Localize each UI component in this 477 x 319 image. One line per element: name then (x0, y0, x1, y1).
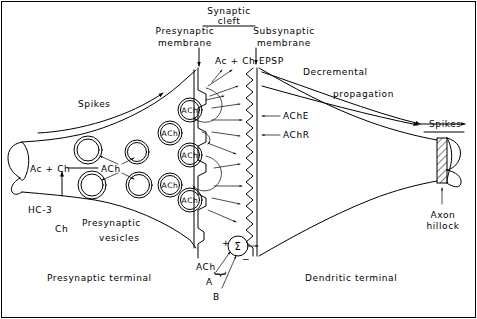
vesicle-ach: ACh (158, 121, 182, 145)
input-ach-label: ACh (196, 262, 216, 272)
axon-hillock-band (437, 138, 447, 183)
synapse-diagram-figure: ACh ACh ACh ACh ACh (0, 0, 477, 319)
subsynaptic-membrane (246, 68, 257, 256)
presynaptic-vesicles-label-line1: Presynaptic (82, 218, 141, 228)
epsp-label: EPSP (259, 56, 284, 66)
axon-hillock (437, 138, 461, 187)
terminal-ac-ch-label: Ac + Ch (30, 164, 70, 174)
subsynaptic-membrane-label-line1: Subsynaptic (253, 26, 315, 36)
presynaptic-membrane-label-line1: Presynaptic (156, 26, 215, 36)
vesicle-ach-docked: ACh (178, 188, 202, 212)
axon-hillock-label-line1: Axon (431, 210, 456, 220)
ach-packaging-arrow (100, 156, 118, 164)
vesicle-ach-docked: ACh (178, 98, 202, 122)
achr-label: AChR (283, 130, 310, 140)
ach-synthesis-label: ACh (101, 164, 121, 174)
ache-label: AChE (283, 111, 309, 121)
input-a-label: A (206, 277, 213, 287)
presynaptic-vesicles-label-line2: vesicles (99, 233, 140, 243)
input-b-label: B (213, 292, 220, 302)
vesicle-empty (126, 172, 152, 198)
summation-minus-sign: − (242, 254, 250, 264)
cleft-ac-ch-label: Ac + Ch (215, 56, 255, 66)
dendritic-terminal-label: Dendritic terminal (305, 273, 397, 283)
subsynaptic-membrane-label-line2: membrane (257, 38, 311, 48)
presynaptic-membrane-label-line2: membrane (158, 38, 212, 48)
axon-hillock-label-line2: hillock (426, 221, 459, 231)
vesicle-ach-label: ACh (162, 181, 179, 190)
vesicle-ach-label: ACh (182, 106, 199, 115)
vesicle-ach-label: ACh (182, 196, 199, 205)
decremental-label-line1: Decremental (303, 67, 368, 77)
diagram-canvas: ACh ACh ACh ACh ACh (0, 0, 477, 319)
vesicle-empty (78, 171, 106, 199)
synaptic-cleft-label-line2: cleft (218, 16, 241, 26)
figure-border (2, 2, 476, 318)
vesicle-ach: ACh (158, 173, 182, 197)
spikes-label-left: Spikes (78, 99, 111, 109)
vesicle-ach-docked: ACh (178, 143, 202, 167)
vesicle-ach-label: ACh (162, 129, 179, 138)
spikes-label-right: Spikes (429, 119, 462, 129)
presynaptic-terminal-label: Presynaptic terminal (47, 273, 152, 283)
summation-sigma: Σ (235, 241, 242, 252)
synaptic-cleft-label-line1: Synaptic (207, 6, 251, 16)
summation-node: Σ + − (216, 236, 258, 288)
decremental-label-line2: propagation (333, 89, 394, 99)
transmitter-diffusion-arrows (206, 70, 242, 222)
presynaptic-vesicles-ach: ACh ACh ACh ACh ACh (158, 98, 202, 212)
vesicle-empty (74, 136, 102, 164)
hc3-label: HC-3 (28, 205, 52, 215)
ch-label: Ch (55, 224, 68, 234)
ach-packaging-arrow (102, 173, 118, 180)
summation-plus-sign: + (222, 238, 230, 248)
vesicle-ach-label: ACh (182, 151, 199, 160)
input-a-arrow (216, 252, 230, 272)
